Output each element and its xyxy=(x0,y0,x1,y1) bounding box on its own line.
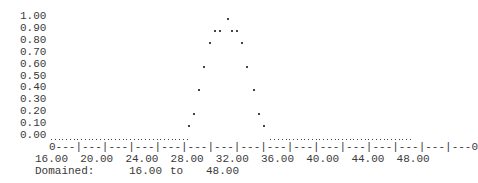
y-tick-label: 0.10 xyxy=(20,117,46,129)
baseline-dot xyxy=(395,139,396,140)
baseline-dot xyxy=(365,139,366,140)
baseline-dot xyxy=(77,139,78,140)
domain-to-word: to xyxy=(170,165,183,177)
baseline-dot xyxy=(123,139,124,140)
data-point xyxy=(227,18,229,20)
baseline-dot xyxy=(372,139,373,140)
baseline-dot xyxy=(342,139,343,140)
baseline-dot xyxy=(357,139,358,140)
baseline-dot xyxy=(179,139,180,140)
baseline-dot xyxy=(312,139,313,140)
baseline-dot xyxy=(368,139,369,140)
baseline-dot xyxy=(168,139,169,140)
y-tick-label: 0.70 xyxy=(20,46,46,58)
baseline-dot xyxy=(187,139,188,140)
baseline-dot xyxy=(51,139,52,140)
y-tick-label: 0.50 xyxy=(20,70,46,82)
baseline-dot xyxy=(157,139,158,140)
data-point xyxy=(236,30,238,32)
data-point xyxy=(219,30,221,32)
baseline-dot xyxy=(172,139,173,140)
baseline-dot xyxy=(62,139,63,140)
baseline-dot xyxy=(55,139,56,140)
baseline-dot xyxy=(108,139,109,140)
baseline-dot xyxy=(282,139,283,140)
baseline-dot xyxy=(89,139,90,140)
baseline-dot xyxy=(402,139,403,140)
baseline-dot xyxy=(410,139,411,140)
baseline-dot xyxy=(406,139,407,140)
baseline-dot xyxy=(289,139,290,140)
x-tick-label: 36.00 xyxy=(261,153,294,165)
y-tick-label: 1.00 xyxy=(20,10,46,22)
baseline-dot xyxy=(316,139,317,140)
x-tick-label: 40.00 xyxy=(306,153,339,165)
baseline-dot xyxy=(96,139,97,140)
baseline-dot xyxy=(384,139,385,140)
baseline-dot xyxy=(160,139,161,140)
data-point xyxy=(246,66,248,68)
baseline-dot xyxy=(153,139,154,140)
baseline-dot xyxy=(350,139,351,140)
domain-label: Domained: xyxy=(35,165,94,177)
baseline-dot xyxy=(104,139,105,140)
baseline-dot xyxy=(293,139,294,140)
x-tick-label: 24.00 xyxy=(125,153,158,165)
baseline-dot xyxy=(270,139,271,140)
x-tick-label: 20.00 xyxy=(80,153,113,165)
x-axis-line: 0---|---|---|---|---|---|---|---|---|---… xyxy=(49,141,478,153)
y-tick-label: 0.30 xyxy=(20,93,46,105)
data-point xyxy=(231,30,233,32)
y-tick-label: 0.40 xyxy=(20,81,46,93)
data-point xyxy=(241,42,243,44)
baseline-dot xyxy=(145,139,146,140)
baseline-dot xyxy=(134,139,135,140)
data-point xyxy=(263,125,265,127)
baseline-dot xyxy=(92,139,93,140)
baseline-dot xyxy=(85,139,86,140)
x-tick-label: 48.00 xyxy=(397,153,430,165)
baseline-dot xyxy=(304,139,305,140)
baseline-dot xyxy=(115,139,116,140)
baseline-dot xyxy=(331,139,332,140)
baseline-dot xyxy=(278,139,279,140)
domain-from: 16.00 xyxy=(129,165,162,177)
baseline-dot xyxy=(100,139,101,140)
baseline-dot xyxy=(138,139,139,140)
data-point xyxy=(209,42,211,44)
y-tick-label: 0.20 xyxy=(20,105,46,117)
y-tick-label: 0.90 xyxy=(20,22,46,34)
baseline-dot xyxy=(111,139,112,140)
baseline-dot xyxy=(338,139,339,140)
data-point xyxy=(198,89,200,91)
baseline-dot xyxy=(183,139,184,140)
domain-to: 48.00 xyxy=(206,165,239,177)
data-point xyxy=(253,89,255,91)
baseline-dot xyxy=(399,139,400,140)
baseline-dot xyxy=(66,139,67,140)
baseline-dot xyxy=(74,139,75,140)
baseline-dot xyxy=(335,139,336,140)
data-point xyxy=(214,30,216,32)
y-tick-label: 0.80 xyxy=(20,34,46,46)
data-point xyxy=(258,113,260,115)
baseline-dot xyxy=(70,139,71,140)
baseline-dot xyxy=(308,139,309,140)
baseline-dot xyxy=(353,139,354,140)
baseline-dot xyxy=(274,139,275,140)
data-point xyxy=(188,125,190,127)
y-tick-label: 0.00 xyxy=(20,129,46,141)
baseline-dot xyxy=(286,139,287,140)
baseline-dot xyxy=(346,139,347,140)
baseline-dot xyxy=(327,139,328,140)
baseline-dot xyxy=(391,139,392,140)
x-tick-label: 44.00 xyxy=(351,153,384,165)
x-tick-label: 16.00 xyxy=(35,153,68,165)
baseline-dot xyxy=(149,139,150,140)
baseline-dot xyxy=(130,139,131,140)
data-point xyxy=(203,66,205,68)
x-tick-label: 28.00 xyxy=(171,153,204,165)
baseline-dot xyxy=(81,139,82,140)
baseline-dot xyxy=(119,139,120,140)
